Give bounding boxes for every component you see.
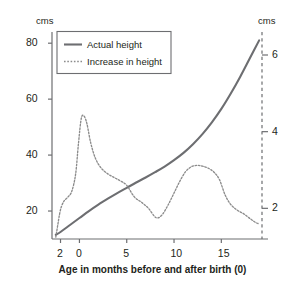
x-tick-label-1: 0 <box>76 248 82 259</box>
right-axis-unit-label: cms <box>258 16 275 26</box>
left-tick-label-80: 80 <box>26 37 38 48</box>
chart-canvas <box>0 0 305 290</box>
x-tick-label-4: 15 <box>218 248 230 259</box>
legend <box>57 32 171 74</box>
x-tick-label-3: 10 <box>171 248 183 259</box>
left-tick-label-20: 20 <box>26 205 38 216</box>
x-axis-title: Age in months before and after birth (0) <box>0 265 305 275</box>
left-tick-label-60: 60 <box>26 93 38 104</box>
series-increase-in-height <box>56 115 259 237</box>
legend-label-actual-height: Actual height <box>87 40 142 50</box>
chart-figure: Actual height Increase in height cms cms… <box>0 0 305 290</box>
x-tick-label-2: 5 <box>123 248 129 259</box>
right-tick-label-4: 4 <box>272 126 278 137</box>
left-tick-label-40: 40 <box>26 149 38 160</box>
left-axis-unit-label: cms <box>36 16 53 26</box>
legend-box <box>57 32 171 74</box>
right-tick-label-2: 2 <box>272 202 278 213</box>
bottom-axis-ticks <box>61 239 222 243</box>
right-axis-ticks <box>262 55 268 208</box>
legend-label-increase-in-height: Increase in height <box>87 57 162 67</box>
right-tick-label-6: 6 <box>272 49 278 60</box>
x-tick-label-0: 2 <box>57 248 63 259</box>
